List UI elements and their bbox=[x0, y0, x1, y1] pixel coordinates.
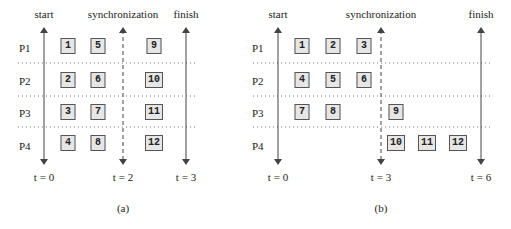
task-box: 3 bbox=[357, 38, 372, 54]
task-box: 11 bbox=[418, 135, 436, 151]
time-label: t = 0 bbox=[34, 171, 54, 183]
task-box: 11 bbox=[145, 104, 163, 120]
sync-label: synchronization bbox=[346, 8, 416, 20]
task-box: 7 bbox=[295, 104, 310, 120]
task-box: 2 bbox=[61, 72, 76, 88]
processor-label: P4 bbox=[252, 140, 264, 152]
processor-label: P2 bbox=[252, 75, 264, 87]
processor-label: P2 bbox=[19, 75, 31, 87]
task-box: 4 bbox=[61, 135, 76, 151]
task-box: 5 bbox=[91, 38, 106, 54]
start-label: start bbox=[35, 8, 54, 20]
task-box: 9 bbox=[389, 104, 404, 120]
task-box: 1 bbox=[61, 38, 76, 54]
task-box: 12 bbox=[145, 135, 163, 151]
time-label: t = 0 bbox=[268, 171, 288, 183]
task-box: 5 bbox=[326, 72, 341, 88]
task-box: 3 bbox=[61, 104, 76, 120]
time-label: t = 2 bbox=[113, 171, 133, 183]
task-box: 6 bbox=[357, 72, 372, 88]
task-box: 10 bbox=[145, 72, 163, 88]
processor-label: P1 bbox=[19, 42, 31, 54]
task-box: 2 bbox=[326, 38, 341, 54]
task-box: 1 bbox=[295, 38, 310, 54]
sync-label: synchronization bbox=[88, 8, 158, 20]
start-label: start bbox=[269, 8, 288, 20]
processor-label: P1 bbox=[252, 42, 264, 54]
task-box: 7 bbox=[91, 104, 106, 120]
caption: (b) bbox=[375, 202, 388, 214]
task-box: 10 bbox=[387, 135, 405, 151]
processor-label: P3 bbox=[252, 107, 264, 119]
time-label: t = 6 bbox=[471, 171, 491, 183]
task-box: 4 bbox=[295, 72, 310, 88]
caption: (a) bbox=[117, 202, 129, 214]
finish-label: finish bbox=[173, 8, 198, 20]
task-box: 9 bbox=[147, 38, 162, 54]
processor-label: P3 bbox=[19, 107, 31, 119]
task-box: 12 bbox=[449, 135, 467, 151]
task-box: 6 bbox=[91, 72, 106, 88]
task-box: 8 bbox=[91, 135, 106, 151]
task-box: 8 bbox=[326, 104, 341, 120]
finish-label: finish bbox=[468, 8, 493, 20]
time-label: t = 3 bbox=[371, 171, 391, 183]
processor-label: P4 bbox=[19, 140, 31, 152]
time-label: t = 3 bbox=[176, 171, 196, 183]
